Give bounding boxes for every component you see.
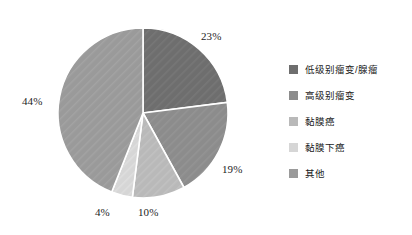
pie-label-10: 10%	[138, 206, 158, 218]
legend-label-high-grade: 高级别瘤变	[305, 90, 355, 101]
pie-label-19: 19%	[222, 163, 242, 175]
chart-legend: 低级别瘤变/腺瘤 高级别瘤变 黏膜癌 黏膜下癌 其他	[289, 56, 409, 186]
legend-item-low-grade[interactable]: 低级别瘤变/腺瘤	[289, 56, 409, 82]
legend-swatch-high-grade	[289, 91, 298, 100]
pie-plot-area: 23% 19% 10% 4% 44%	[0, 0, 280, 235]
pie-label-4: 4%	[95, 206, 110, 218]
pie-label-44: 44%	[22, 95, 42, 107]
legend-label-submucosal-carcinoma: 黏膜下癌	[305, 142, 345, 153]
pie-svg	[0, 0, 280, 235]
legend-label-other: 其他	[305, 168, 325, 179]
legend-swatch-submucosal-carcinoma	[289, 143, 298, 152]
legend-item-other[interactable]: 其他	[289, 160, 409, 186]
pie-slice-group	[58, 28, 228, 198]
legend-item-mucosal-carcinoma[interactable]: 黏膜癌	[289, 108, 409, 134]
legend-label-mucosal-carcinoma: 黏膜癌	[305, 116, 335, 127]
legend-swatch-mucosal-carcinoma	[289, 117, 298, 126]
legend-item-submucosal-carcinoma[interactable]: 黏膜下癌	[289, 134, 409, 160]
legend-swatch-low-grade	[289, 65, 298, 74]
pie-label-23: 23%	[201, 30, 221, 42]
legend-item-high-grade[interactable]: 高级别瘤变	[289, 82, 409, 108]
legend-label-low-grade: 低级别瘤变/腺瘤	[305, 64, 378, 75]
pie-chart-figure: 23% 19% 10% 4% 44% 低级别瘤变/腺瘤 高级别瘤变 黏膜癌 黏膜…	[0, 0, 412, 235]
legend-swatch-other	[289, 169, 298, 178]
